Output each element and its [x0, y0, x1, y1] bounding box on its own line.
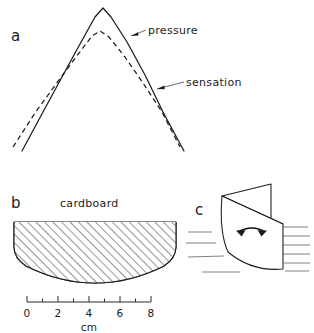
scale-tick-label-0: 0 [24, 307, 31, 319]
scale-tick-label-8: 8 [148, 307, 155, 319]
panel-b-label: b [11, 194, 21, 212]
scale-unit-label: cm [81, 321, 97, 333]
panel-c-label: c [195, 201, 203, 219]
cardboard-label: cardboard [60, 197, 119, 210]
sensation-annotation-label: sensation [186, 76, 242, 89]
panel-a-label: a [11, 27, 20, 45]
pressure-annotation-label: pressure [148, 24, 198, 37]
figure-background [0, 0, 314, 333]
scale-tick-label-2: 2 [55, 307, 62, 319]
figure-root: a pressure sensation b cardboard [0, 0, 314, 333]
scale-tick-label-4: 4 [86, 307, 93, 319]
figure-svg: a pressure sensation b cardboard [0, 0, 314, 333]
scale-tick-label-6: 6 [117, 307, 124, 319]
